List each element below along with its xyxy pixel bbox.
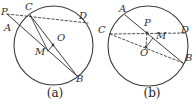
panel-a-label-P: P — [0, 6, 8, 17]
panel-a-label-M: M — [34, 46, 46, 57]
panel-a-caption: (a) — [47, 86, 64, 100]
geometry-figure-svg: PCDAOMB(a)ACPMDOB(b) — [0, 0, 196, 108]
panel-a-secant-P-C-D — [7, 14, 88, 23]
panel-b-label-M: M — [155, 30, 167, 41]
panel-b-label-B: B — [184, 52, 192, 63]
panel-b-caption: (b) — [143, 86, 160, 100]
panel-a-label-C: C — [25, 1, 33, 12]
panel-b-chord-A-B — [125, 15, 183, 63]
panel-b-label-P: P — [143, 17, 151, 28]
panel-a-label-A: A — [3, 22, 11, 33]
panel-b-label-C: C — [98, 24, 106, 35]
panel-b-segment-P-O — [146, 33, 147, 47]
panel-a-label-O: O — [57, 32, 65, 43]
panel-b-label-O: O — [140, 47, 148, 58]
panel-b-label-D: D — [180, 24, 189, 35]
panel-b-point-P-dot — [146, 32, 149, 35]
panel-b-label-A: A — [118, 3, 126, 14]
panel-a-label-D: D — [78, 10, 87, 21]
panel-a-center-O-dot — [52, 44, 55, 47]
geometry-figure-canvas: PCDAOMB(a)ACPMDOB(b) — [0, 0, 196, 108]
panel-a-label-B: B — [75, 73, 83, 84]
panel-a-secant-P-A-B — [7, 14, 77, 76]
panel-b-segment-O-M — [146, 38, 153, 47]
